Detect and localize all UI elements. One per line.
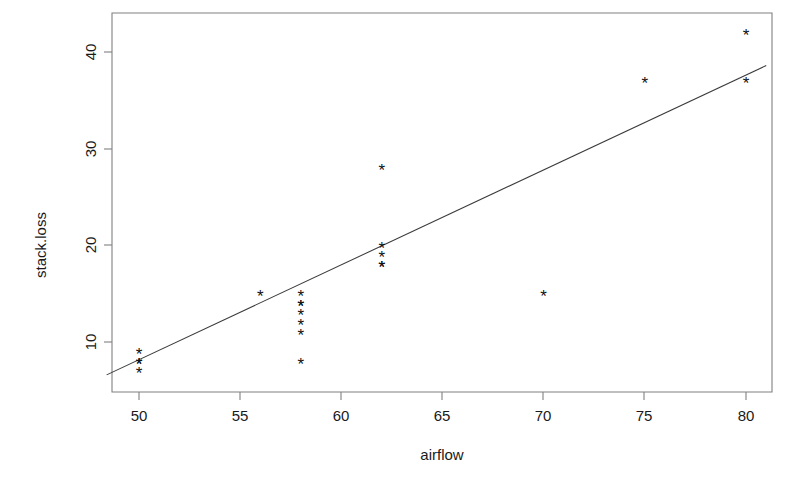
data-point: *	[257, 287, 264, 306]
x-tick-label-65: 65	[434, 407, 451, 424]
data-point: *	[743, 74, 750, 93]
x-tick-label-70: 70	[535, 407, 552, 424]
data-point: *	[540, 287, 547, 306]
x-axis-title: airflow	[420, 446, 464, 463]
regression-line	[107, 66, 767, 375]
axis-box	[112, 13, 772, 392]
data-point: *	[743, 26, 750, 45]
x-tick-label-55: 55	[232, 407, 249, 424]
x-tick-label-80: 80	[738, 407, 755, 424]
y-axis-tick-labels: 10 20 30 40	[82, 44, 99, 351]
x-axis-tick-labels: 50 55 60 65 70 75 80	[131, 407, 755, 424]
x-tick-label-75: 75	[636, 407, 653, 424]
y-tick-label-10: 10	[82, 334, 99, 351]
data-point: *	[298, 316, 305, 335]
data-point: *	[642, 74, 649, 93]
plot-canvas: 10 20 30 40 stack.loss 50 55 60 65 70 75…	[0, 0, 796, 487]
x-tick-label-60: 60	[333, 407, 350, 424]
x-tick-label-50: 50	[131, 407, 148, 424]
y-tick-label-20: 20	[82, 237, 99, 254]
data-point: *	[298, 355, 305, 374]
y-tick-label-30: 30	[82, 141, 99, 158]
y-tick-label-40: 40	[82, 44, 99, 61]
scatter-points-layer: *********************	[136, 26, 750, 383]
y-axis-ticks	[104, 52, 112, 342]
plot-frame	[112, 13, 772, 392]
scatter-plot-figure: 10 20 30 40 stack.loss 50 55 60 65 70 75…	[0, 0, 796, 487]
x-axis-ticks	[139, 392, 746, 400]
y-axis-title: stack.loss	[32, 212, 49, 278]
data-point: *	[378, 161, 385, 180]
data-point: *	[136, 345, 143, 364]
data-point: *	[378, 239, 385, 258]
